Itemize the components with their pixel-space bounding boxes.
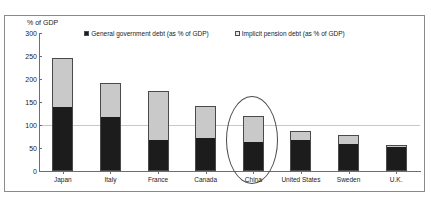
y-axis-title: % of GDP: [27, 19, 58, 26]
x-axis-label-u-k: U.K.: [390, 176, 403, 183]
x-axis-tick-mark: [349, 171, 350, 174]
bar-u-k[interactable]: [386, 145, 407, 171]
x-axis-tick-mark: [206, 171, 207, 174]
x-axis-label-italy: Italy: [104, 176, 116, 183]
bar-canada[interactable]: [195, 106, 216, 171]
bar-sweden[interactable]: [338, 135, 359, 171]
x-axis-label-china: China: [245, 176, 262, 183]
y-axis-tick-label: 200: [15, 76, 37, 83]
x-axis-tick-mark: [110, 171, 111, 174]
x-axis-label-united-states: United States: [281, 176, 320, 183]
bar-segment-pension-debt: [52, 58, 73, 106]
bar-segment-government-debt: [195, 138, 216, 171]
y-axis-tick-labels: 050100150200250300: [11, 33, 37, 171]
bar-segment-pension-debt: [243, 116, 264, 142]
bar-segment-government-debt: [148, 140, 169, 171]
bar-segment-government-debt: [52, 107, 73, 171]
bar-segment-government-debt: [338, 144, 359, 171]
y-axis-tick-label: 250: [15, 53, 37, 60]
bar-united-states[interactable]: [290, 131, 311, 171]
x-axis-tick-mark: [253, 171, 254, 174]
x-axis-label-france: France: [148, 176, 168, 183]
y-axis-tick-mark: [39, 125, 42, 126]
bar-segment-pension-debt: [290, 131, 311, 140]
y-axis-tick-mark: [39, 102, 42, 103]
y-axis-tick-mark: [39, 79, 42, 80]
bar-segment-pension-debt: [148, 91, 169, 140]
y-axis-tick-mark: [39, 56, 42, 57]
bar-segment-pension-debt: [195, 106, 216, 138]
bar-segment-government-debt: [290, 140, 311, 171]
x-axis-tick-mark: [63, 171, 64, 174]
y-axis-tick-label: 0: [15, 168, 37, 175]
y-axis-tick-label: 50: [15, 145, 37, 152]
y-axis-tick-mark: [39, 33, 42, 34]
bar-segment-pension-debt: [338, 135, 359, 144]
y-axis-tick-label: 300: [15, 30, 37, 37]
y-axis-tick-mark: [39, 148, 42, 149]
x-axis-label-canada: Canada: [194, 176, 217, 183]
bar-italy[interactable]: [100, 83, 121, 171]
bar-france[interactable]: [148, 91, 169, 172]
bar-segment-government-debt: [243, 142, 264, 171]
chart-frame: % of GDP General government debt (as % o…: [4, 15, 425, 192]
y-axis-tick-label: 150: [15, 99, 37, 106]
y-axis-tick-label: 100: [15, 122, 37, 129]
x-axis-label-japan: Japan: [54, 176, 72, 183]
bar-japan[interactable]: [52, 58, 73, 171]
bar-segment-government-debt: [386, 147, 407, 171]
bar-segment-government-debt: [100, 117, 121, 171]
x-axis-label-sweden: Sweden: [337, 176, 361, 183]
bar-segment-pension-debt: [100, 83, 121, 117]
x-axis-tick-mark: [158, 171, 159, 174]
plot-area: [39, 33, 420, 171]
x-axis-tick-mark: [301, 171, 302, 174]
y-axis-tick-mark: [39, 171, 42, 172]
x-axis-line: [39, 171, 421, 172]
x-axis-tick-mark: [396, 171, 397, 174]
gridline: [39, 125, 420, 126]
bar-china[interactable]: [243, 116, 264, 171]
